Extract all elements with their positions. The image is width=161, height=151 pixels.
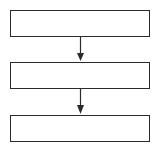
arrow-down-icon	[77, 89, 84, 114]
flow-arrows	[0, 0, 161, 151]
arrow-down-icon	[77, 37, 84, 61]
